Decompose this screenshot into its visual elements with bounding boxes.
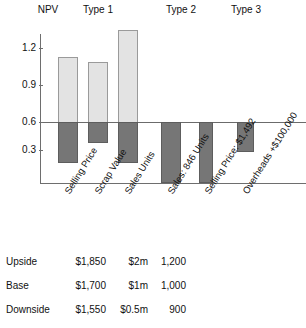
table-cell-sales-units: 1,000 bbox=[152, 280, 186, 291]
table-row: Base $1,700 $1m 1,000 bbox=[6, 280, 306, 304]
scenario-table: Upside $1,850 $2m 1,200 Base $1,700 $1m … bbox=[6, 256, 306, 328]
y-tick-mark-0_3 bbox=[39, 150, 43, 151]
y-tick-label-0_6: 0.6 bbox=[6, 116, 36, 127]
table-cell-selling-price: $1,550 bbox=[64, 304, 106, 315]
table-cell-selling-price: $1,700 bbox=[64, 280, 106, 291]
y-tick-mark-1_2 bbox=[39, 48, 43, 49]
y-tick-label-0_3: 0.3 bbox=[6, 144, 36, 155]
bar-downside-scrap-value bbox=[88, 122, 108, 143]
table-cell-scrap-value: $0.5m bbox=[112, 304, 148, 315]
y-axis-line bbox=[40, 34, 41, 183]
table-cell-sales-units: 1,200 bbox=[152, 256, 186, 267]
plot-area: 1.2 0.9 0.6 0.3 Selling Price Scrap Valu… bbox=[0, 0, 306, 200]
table-cell-scenario: Upside bbox=[6, 256, 64, 267]
chart-canvas: NPV Type 1 Type 2 Type 3 1.2 0.9 0.6 0.3 bbox=[0, 0, 306, 328]
table-cell-selling-price: $1,850 bbox=[64, 256, 106, 267]
table-row: Upside $1,850 $2m 1,200 bbox=[6, 256, 306, 280]
bar-downside-selling-price bbox=[58, 122, 78, 163]
y-tick-mark-0_6 bbox=[39, 122, 43, 123]
table-cell-scrap-value: $2m bbox=[112, 256, 148, 267]
table-cell-scrap-value: $1m bbox=[112, 280, 148, 291]
bar-upside-sales-units bbox=[118, 30, 138, 123]
y-tick-label-0_9: 0.9 bbox=[6, 79, 36, 90]
y-tick-label-1_2: 1.2 bbox=[6, 42, 36, 53]
table-cell-sales-units: 900 bbox=[152, 304, 186, 315]
table-cell-scenario: Downside bbox=[6, 304, 64, 315]
table-row: Downside $1,550 $0.5m 900 bbox=[6, 304, 306, 328]
bar-upside-scrap-value bbox=[88, 62, 108, 123]
bar-upside-selling-price bbox=[58, 57, 78, 123]
y-tick-mark-0_9 bbox=[39, 85, 43, 86]
table-cell-scenario: Base bbox=[6, 280, 64, 291]
